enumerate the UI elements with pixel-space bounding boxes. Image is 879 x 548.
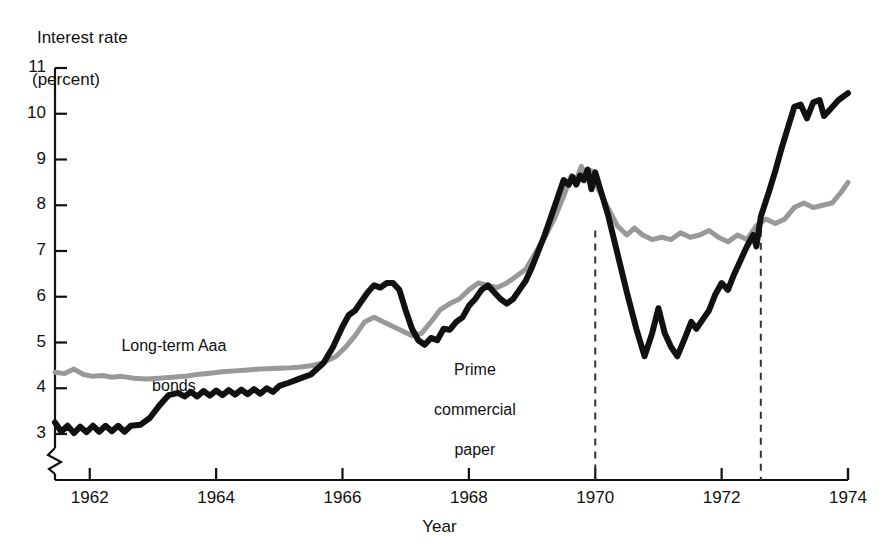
- series-line-long-term-aaa-bonds: [55, 166, 848, 379]
- x-tick-label: 1966: [308, 488, 378, 508]
- y-tick-label: 11: [16, 57, 46, 77]
- x-tick-label: 1968: [434, 488, 504, 508]
- y-tick-label: 9: [16, 149, 46, 169]
- x-tick-label: 1972: [687, 488, 757, 508]
- interest-rate-line-chart: Interest rate (percent) Year Long-term A…: [0, 0, 879, 548]
- x-tick-label: 1974: [813, 488, 879, 508]
- y-tick-label: 5: [16, 332, 46, 352]
- y-tick-label: 6: [16, 286, 46, 306]
- x-tick-label: 1970: [560, 488, 630, 508]
- y-tick-label: 3: [16, 423, 46, 443]
- axes: [48, 68, 848, 480]
- data-series: [55, 93, 848, 433]
- y-tick-label: 7: [16, 240, 46, 260]
- x-tick-label: 1962: [55, 488, 125, 508]
- y-tick-label: 4: [16, 377, 46, 397]
- plot-area: [0, 0, 879, 548]
- y-axis-break-symbol: [48, 448, 61, 474]
- x-tick-label: 1964: [181, 488, 251, 508]
- y-tick-label: 10: [16, 103, 46, 123]
- y-tick-label: 8: [16, 194, 46, 214]
- series-line-prime-commercial-paper: [55, 93, 848, 433]
